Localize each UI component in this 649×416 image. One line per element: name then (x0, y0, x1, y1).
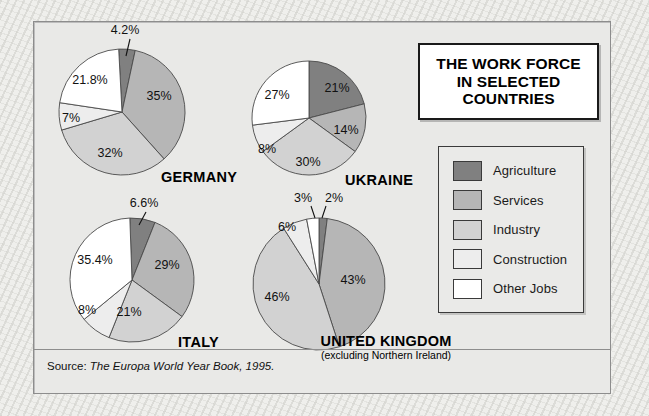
leader-line-uk-other (311, 206, 315, 218)
label-italy-services: 29% (154, 258, 179, 272)
title-line-2: IN SELECTED (457, 73, 561, 90)
title-box: THE WORK FORCE IN SELECTED COUNTRIES (418, 43, 599, 120)
caption-germany: GERMANY (161, 169, 237, 185)
label-uk-other: 3% (294, 191, 312, 205)
chart-surface: 4.2% 35% 32% 7% 21.8% 21% 14% 30% 8% 27%… (34, 22, 610, 393)
legend-item-services: Services (453, 186, 583, 216)
caption-ukraine: UKRAINE (345, 172, 413, 188)
legend-label-other-jobs: Other Jobs (493, 281, 558, 296)
label-germany-other: 21.8% (72, 73, 107, 87)
caption-united-kingdom: UNITED KINGDOM (excluding Northern Irela… (306, 333, 466, 361)
pie-italy (70, 212, 194, 342)
label-italy-agriculture: 6.6% (130, 196, 159, 210)
legend: Agriculture Services Industry Constructi… (438, 146, 584, 313)
label-ukraine-services: 14% (333, 123, 358, 137)
legend-swatch-agriculture (453, 161, 482, 181)
label-germany-industry: 32% (97, 146, 122, 160)
legend-item-agriculture: Agriculture (453, 156, 583, 186)
legend-swatch-construction (453, 249, 482, 269)
label-ukraine-industry: 30% (295, 155, 320, 169)
legend-swatch-services (453, 190, 482, 210)
caption-uk-subtitle: (excluding Northern Ireland) (306, 349, 466, 361)
label-italy-construction: 8% (78, 303, 96, 317)
label-uk-agriculture: 2% (325, 191, 343, 205)
label-ukraine-other: 27% (264, 88, 289, 102)
title-line-1: THE WORK FORCE (436, 55, 580, 72)
figure-frame: 4.2% 35% 32% 7% 21.8% 21% 14% 30% 8% 27%… (33, 21, 611, 394)
source-publication: The Europa World Year Book, 1995. (90, 360, 275, 372)
label-germany-agriculture: 4.2% (111, 23, 140, 37)
source-prefix: Source: (47, 360, 90, 372)
label-uk-services: 43% (340, 273, 365, 287)
caption-uk-main: UNITED KINGDOM (321, 333, 452, 349)
legend-swatch-other-jobs (453, 279, 482, 299)
legend-label-construction: Construction (493, 252, 567, 267)
label-ukraine-agriculture: 21% (324, 81, 349, 95)
caption-italy: ITALY (178, 334, 219, 350)
legend-item-industry: Industry (453, 215, 583, 245)
pie-italy-slices (70, 218, 194, 342)
source-note: Source: The Europa World Year Book, 1995… (47, 360, 274, 372)
title-line-3: COUNTRIES (462, 90, 554, 107)
page-title: THE WORK FORCE IN SELECTED COUNTRIES (436, 55, 580, 109)
label-uk-industry: 46% (264, 290, 289, 304)
legend-label-industry: Industry (493, 222, 540, 237)
legend-label-agriculture: Agriculture (493, 163, 556, 178)
legend-item-construction: Construction (453, 245, 583, 275)
legend-item-other-jobs: Other Jobs (453, 274, 583, 304)
label-ukraine-construction: 8% (258, 142, 276, 156)
label-italy-industry: 21% (116, 305, 141, 319)
source-divider (34, 349, 610, 350)
legend-label-services: Services (493, 193, 544, 208)
label-germany-services: 35% (146, 89, 171, 103)
label-italy-other: 35.4% (77, 253, 112, 267)
leader-line-uk-agriculture (322, 206, 326, 218)
label-germany-construction: 7% (62, 111, 80, 125)
label-uk-construction: 6% (278, 220, 296, 234)
legend-swatch-industry (453, 220, 482, 240)
